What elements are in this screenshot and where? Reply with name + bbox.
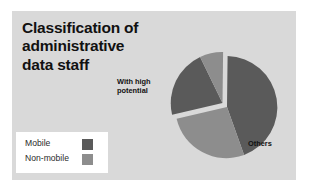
pie-svg (168, 48, 290, 168)
legend-item-non-mobile: Non-mobile (16, 152, 108, 168)
chart-title: Classification of administrative data st… (22, 19, 172, 74)
annotation-high-potential: With high potential (117, 78, 151, 96)
chart-title-line-3: data staff (22, 56, 172, 74)
legend-swatch-mobile (82, 139, 93, 150)
annotation-high-potential-line-1: With high (117, 77, 151, 86)
legend-item-mobile: Mobile (16, 137, 108, 153)
legend-label-non-mobile: Non-mobile (25, 153, 69, 163)
pie-exploded-group (171, 52, 223, 115)
pie-graphic (168, 48, 290, 168)
legend-label-mobile: Mobile (25, 138, 50, 148)
chart-legend: Mobile Non-mobile (16, 132, 108, 173)
legend-swatch-non-mobile (82, 154, 93, 165)
figure-pie-chart: Classification of administrative data st… (0, 0, 310, 192)
annotation-high-potential-line-2: potential (117, 86, 148, 95)
chart-title-line-2: administrative (22, 37, 172, 55)
annotation-others: Others (248, 140, 272, 149)
chart-title-line-1: Classification of (22, 19, 172, 37)
